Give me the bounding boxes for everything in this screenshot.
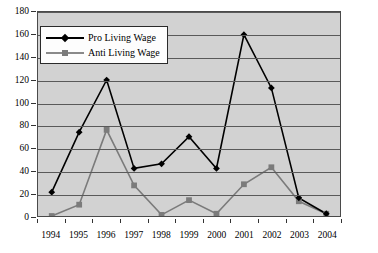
data-point-marker (131, 165, 138, 172)
gridline (38, 12, 340, 13)
y-axis-tick-label: 80 (20, 120, 30, 130)
gridline (38, 126, 340, 127)
x-axis-tick-mark (286, 219, 287, 223)
legend-label: Pro Living Wage (88, 32, 156, 43)
x-axis-tick-mark (341, 219, 342, 223)
x-axis-tick-mark (230, 219, 231, 223)
y-axis: 020406080100120140160180 (0, 0, 37, 253)
y-axis-tick-label: 40 (20, 166, 30, 176)
y-axis-tick-mark (31, 194, 36, 195)
y-axis-tick-mark (31, 103, 36, 104)
x-axis-tick-label: 2004 (318, 230, 337, 240)
legend-item-pro-living-wage: Pro Living Wage (46, 30, 160, 45)
x-axis-tick-mark (120, 219, 121, 223)
y-axis-tick-label: 100 (15, 98, 29, 108)
x-axis-tick-mark (148, 219, 149, 223)
y-axis-tick-label: 160 (15, 29, 29, 39)
legend-label: Anti Living Wage (88, 47, 160, 58)
gridline (38, 81, 340, 82)
x-axis-tick-mark (203, 219, 204, 223)
x-axis-tick-label: 1996 (97, 230, 116, 240)
x-axis: 1994199519961997199819992000200120022003… (37, 219, 341, 253)
x-axis-tick-label: 2003 (290, 230, 309, 240)
x-axis-tick-label: 1997 (124, 230, 143, 240)
y-axis-tick-label: 60 (20, 143, 30, 153)
x-axis-tick-label: 1999 (180, 230, 199, 240)
x-axis-tick-label: 1994 (41, 230, 60, 240)
y-axis-tick-mark (31, 125, 36, 126)
data-point-marker (49, 213, 55, 216)
x-axis-tick-mark (313, 219, 314, 223)
legend-item-anti-living-wage: Anti Living Wage (46, 45, 160, 60)
legend-swatch-square-icon (46, 47, 84, 59)
gridline (38, 172, 340, 173)
x-axis-tick-label: 2000 (207, 230, 226, 240)
y-axis-tick-mark (31, 80, 36, 81)
x-axis-tick-mark (37, 219, 38, 223)
y-axis-tick-label: 140 (15, 52, 29, 62)
x-axis-tick-label: 1998 (152, 230, 171, 240)
x-axis-tick-label: 2001 (235, 230, 254, 240)
data-point-marker (76, 129, 83, 136)
y-axis-tick-mark (31, 57, 36, 58)
line-chart: 020406080100120140160180 199419951996199… (0, 0, 378, 253)
y-axis-tick-label: 20 (20, 189, 30, 199)
legend-swatch-diamond-icon (46, 32, 84, 44)
y-axis-tick-mark (31, 217, 36, 218)
y-axis-tick-label: 0 (24, 212, 29, 222)
gridline (38, 104, 340, 105)
x-axis-tick-mark (258, 219, 259, 223)
data-point-marker (241, 181, 247, 187)
data-point-marker (104, 127, 110, 133)
data-point-marker (268, 85, 275, 92)
y-axis-tick-label: 180 (15, 6, 29, 16)
data-point-marker (131, 183, 137, 189)
y-axis-tick-label: 120 (15, 75, 29, 85)
y-axis-tick-mark (31, 34, 36, 35)
gridline (38, 149, 340, 150)
y-axis-tick-mark (31, 171, 36, 172)
x-axis-tick-mark (92, 219, 93, 223)
y-axis-tick-mark (31, 148, 36, 149)
x-axis-tick-mark (65, 219, 66, 223)
data-point-marker (186, 197, 192, 203)
x-axis-tick-label: 2002 (262, 230, 281, 240)
gridline (38, 195, 340, 196)
y-axis-tick-mark (31, 11, 36, 12)
data-point-marker (214, 211, 220, 216)
data-point-marker (159, 212, 165, 216)
x-axis-tick-mark (175, 219, 176, 223)
data-point-marker (268, 164, 274, 170)
x-axis-tick-label: 1995 (69, 230, 88, 240)
chart-legend: Pro Living Wage Anti Living Wage (40, 26, 168, 64)
data-point-marker (76, 202, 82, 208)
